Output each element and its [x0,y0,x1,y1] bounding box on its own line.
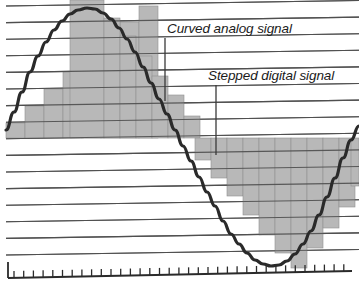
gridline [6,50,359,56]
signal-diagram-canvas: Curved analog signalStepped digital sign… [0,0,359,282]
annotation-label-curved-analog-signal: Curved analog signal [167,21,293,36]
digital-step-bar [275,138,291,253]
digital-step-bar [227,138,243,196]
axis-baseline [8,271,352,278]
gridline [6,84,359,90]
signal-diagram-figure: Curved analog signalStepped digital sign… [0,0,359,282]
gridline [6,1,359,7]
digital-step-bar [195,138,211,160]
digital-step-bar [211,138,227,178]
digital-step-bar [243,138,259,215]
annotation-label-stepped-digital-signal: Stepped digital signal [208,68,335,83]
digital-step-bar [259,138,275,235]
digital-step-bar [351,138,359,186]
digital-step-bar [44,89,63,138]
